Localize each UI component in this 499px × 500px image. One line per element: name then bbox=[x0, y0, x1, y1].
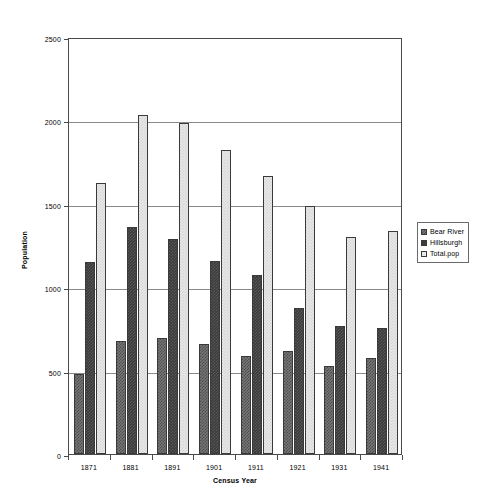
bar bbox=[85, 262, 95, 454]
x-tick-label: 1901 bbox=[206, 464, 222, 471]
bar bbox=[241, 356, 251, 454]
bar bbox=[157, 338, 167, 454]
y-tick-label: 2500 bbox=[45, 36, 61, 43]
bar bbox=[221, 150, 231, 454]
x-tick-mark bbox=[277, 455, 278, 460]
x-tick-label: 1911 bbox=[248, 464, 264, 471]
plot-area: 05001000150020002500 bbox=[68, 38, 402, 455]
bar bbox=[324, 366, 334, 454]
x-tick-mark bbox=[68, 455, 69, 460]
bar bbox=[179, 123, 189, 454]
bar bbox=[252, 275, 262, 454]
bar bbox=[283, 351, 293, 454]
bar bbox=[346, 237, 356, 454]
bar bbox=[263, 176, 273, 454]
bar bbox=[127, 227, 137, 454]
bar bbox=[366, 358, 376, 454]
bar bbox=[96, 183, 106, 454]
bar bbox=[335, 326, 345, 454]
y-tick-label: 500 bbox=[49, 369, 61, 376]
x-tick-mark bbox=[152, 455, 153, 460]
bar bbox=[388, 231, 398, 455]
x-tick-mark bbox=[402, 455, 403, 460]
bar bbox=[168, 239, 178, 454]
chart-legend: Bear RiverHillsburghTotal.pop bbox=[417, 222, 469, 263]
legend-item: Bear River bbox=[421, 226, 464, 237]
x-tick-label: 1941 bbox=[373, 464, 389, 471]
x-tick-label: 1871 bbox=[81, 464, 97, 471]
x-tick-mark bbox=[235, 455, 236, 460]
legend-swatch-icon bbox=[421, 229, 427, 235]
y-axis-title: Population bbox=[21, 231, 28, 269]
x-tick-label: 1931 bbox=[331, 464, 347, 471]
bar bbox=[210, 261, 220, 454]
bar bbox=[74, 374, 84, 454]
legend-label: Bear River bbox=[430, 228, 464, 235]
x-tick-mark bbox=[319, 455, 320, 460]
bar bbox=[294, 308, 304, 454]
legend-item: Hillsburgh bbox=[421, 237, 464, 248]
bars-layer bbox=[69, 39, 401, 454]
y-tick-label: 1000 bbox=[45, 286, 61, 293]
x-tick-label: 1891 bbox=[164, 464, 180, 471]
bar bbox=[199, 344, 209, 454]
y-tick-label: 0 bbox=[57, 453, 61, 460]
x-axis: 18711881189119011911192119311941 bbox=[68, 455, 402, 456]
x-tick-label: 1921 bbox=[289, 464, 305, 471]
x-axis-title: Census Year bbox=[68, 477, 402, 484]
bar bbox=[116, 341, 126, 454]
x-tick-mark bbox=[110, 455, 111, 460]
bar bbox=[305, 206, 315, 454]
x-tick-mark bbox=[193, 455, 194, 460]
bar bbox=[138, 115, 148, 454]
y-tick-label: 2000 bbox=[45, 119, 61, 126]
legend-label: Total.pop bbox=[430, 250, 459, 257]
population-bar-chart: Population 05001000150020002500 18711881… bbox=[0, 0, 499, 500]
legend-swatch-icon bbox=[421, 251, 427, 257]
legend-item: Total.pop bbox=[421, 248, 464, 259]
legend-label: Hillsburgh bbox=[430, 239, 462, 246]
x-tick-mark bbox=[360, 455, 361, 460]
x-tick-label: 1881 bbox=[122, 464, 138, 471]
bar bbox=[377, 328, 387, 454]
legend-swatch-icon bbox=[421, 240, 427, 246]
y-tick-label: 1500 bbox=[45, 202, 61, 209]
